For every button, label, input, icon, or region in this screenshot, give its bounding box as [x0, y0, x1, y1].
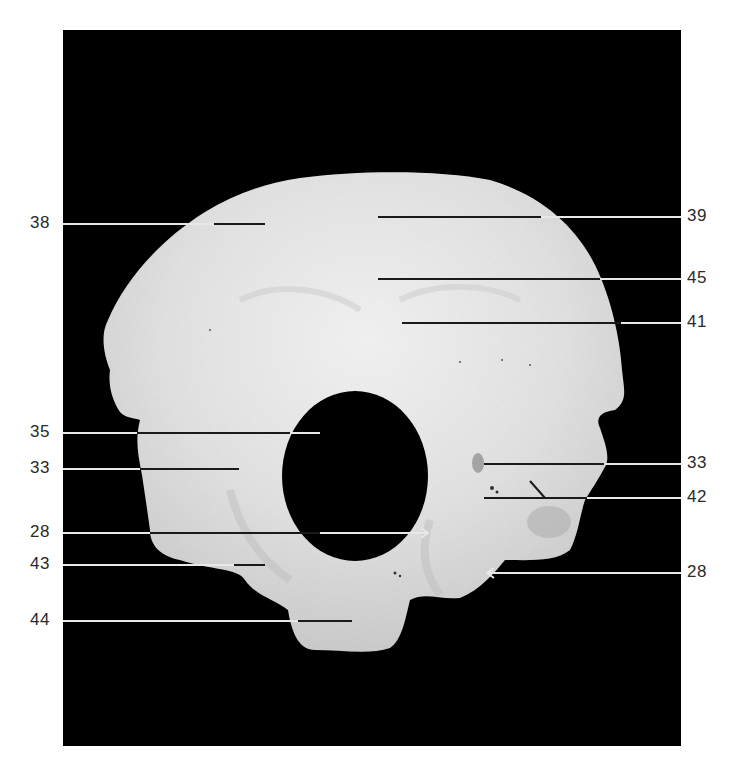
foramen-magnum [282, 391, 428, 561]
label-left-43: 43 [30, 554, 50, 574]
label-left-35: 35 [30, 422, 50, 442]
label-right-28: 28 [687, 562, 707, 582]
label-right-39: 39 [687, 206, 707, 226]
label-right-33: 33 [687, 453, 707, 473]
label-right-41: 41 [687, 312, 707, 332]
label-left-44: 44 [30, 610, 50, 630]
label-right-42: 42 [687, 487, 707, 507]
label-right-45: 45 [687, 268, 707, 288]
anatomical-figure: 383533284344394541334228 [0, 0, 739, 767]
condylar-fossa [472, 453, 484, 473]
label-left-28: 28 [30, 522, 50, 542]
label-left-33: 33 [30, 458, 50, 478]
occipital-bone-photo [0, 0, 739, 767]
label-left-38: 38 [30, 213, 50, 233]
